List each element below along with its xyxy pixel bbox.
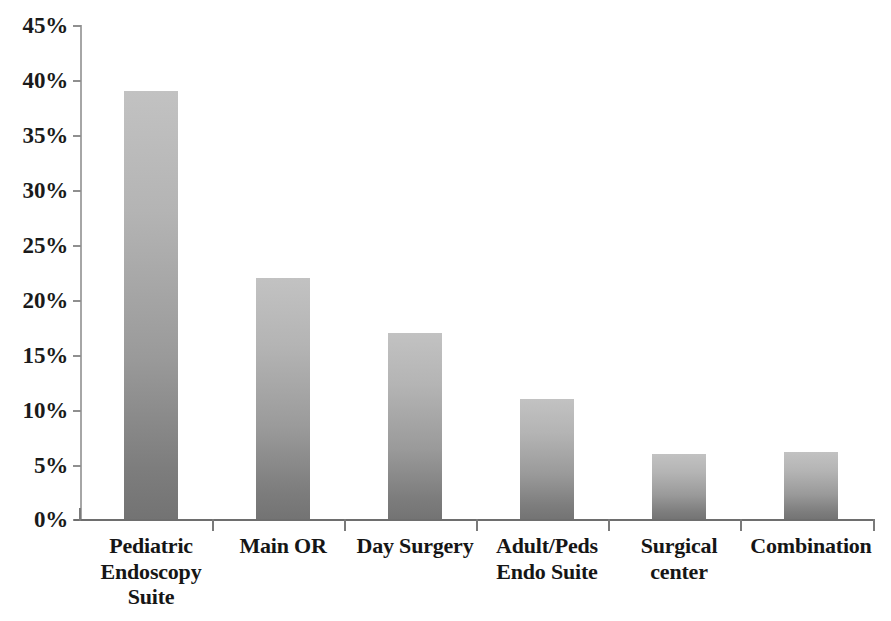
plot-area <box>0 0 891 621</box>
x-axis-tick <box>740 519 742 531</box>
x-axis-origin-tick <box>79 508 81 521</box>
x-axis-category-label: Day Surgery <box>349 533 481 559</box>
x-axis-category-label: PediatricEndoscopySuite <box>85 533 217 610</box>
x-axis-category-label-line: Endo Suite <box>481 559 613 585</box>
bar <box>124 91 178 520</box>
x-axis-category-label-line: Pediatric <box>85 533 217 559</box>
x-axis-category-label-line: center <box>613 559 745 585</box>
x-axis-category-label-line: Main OR <box>217 533 349 559</box>
bar <box>652 454 706 520</box>
x-axis-line <box>74 519 875 521</box>
bar <box>388 333 442 520</box>
bar <box>784 452 838 520</box>
bar-chart: 45% 40% 35% 30% 25% 20% 15% 10% 5% 0% Pe… <box>0 0 891 621</box>
x-axis-tick <box>344 519 346 531</box>
x-axis-category-label-line: Endoscopy <box>85 559 217 585</box>
x-axis-category-label-line: Combination <box>745 533 877 559</box>
x-axis-category-label-line: Adult/Peds <box>481 533 613 559</box>
bar <box>256 278 310 520</box>
x-axis-category-label: Surgicalcenter <box>613 533 745 584</box>
x-axis-category-label: Combination <box>745 533 877 559</box>
x-axis-category-label-line: Day Surgery <box>349 533 481 559</box>
x-axis-category-label-line: Suite <box>85 584 217 610</box>
x-axis-tick <box>873 519 875 531</box>
x-axis-category-label-line: Surgical <box>613 533 745 559</box>
x-axis-category-label: Adult/PedsEndo Suite <box>481 533 613 584</box>
x-axis-tick <box>476 519 478 531</box>
x-axis-category-label: Main OR <box>217 533 349 559</box>
bar <box>520 399 574 520</box>
x-axis-tick <box>212 519 214 531</box>
x-axis-tick <box>608 519 610 531</box>
